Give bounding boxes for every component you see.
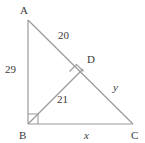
length-label-AB: 29 — [5, 63, 17, 75]
vertex-label-B: B — [19, 129, 26, 141]
vertex-label-A: A — [20, 4, 28, 16]
length-label-BD: 21 — [57, 93, 68, 105]
segment-BD — [28, 69, 83, 124]
geometry-figure: A B C D 20 29 21 y x — [0, 0, 145, 143]
length-label-DC: y — [112, 81, 118, 93]
vertex-label-C: C — [131, 129, 138, 141]
length-label-AD: 20 — [58, 29, 70, 41]
length-label-BC: x — [83, 129, 89, 141]
vertex-label-D: D — [87, 53, 95, 65]
geometry-canvas: A B C D 20 29 21 y x — [0, 0, 145, 143]
